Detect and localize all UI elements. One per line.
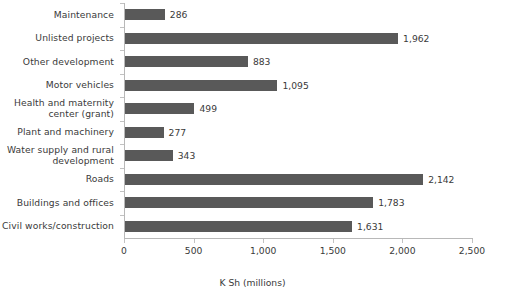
category-label: Health and maternity center (grant) bbox=[0, 98, 114, 119]
bar-value-label: 1,095 bbox=[282, 80, 308, 91]
y-tick bbox=[120, 3, 124, 4]
bar-value-label: 286 bbox=[170, 9, 188, 20]
y-tick bbox=[120, 144, 124, 145]
x-tick-label: 2,000 bbox=[389, 245, 415, 256]
category-label: Civil works/construction bbox=[0, 221, 114, 232]
bar-value-label: 277 bbox=[169, 127, 187, 138]
bar bbox=[125, 197, 373, 208]
category-label: Water supply and rural development bbox=[0, 145, 114, 166]
bar bbox=[125, 56, 248, 67]
category-label: Motor vehicles bbox=[0, 80, 114, 91]
x-axis-line bbox=[124, 238, 473, 239]
bar bbox=[125, 174, 423, 185]
y-tick bbox=[120, 168, 124, 169]
category-label: Plant and machinery bbox=[0, 127, 114, 138]
y-tick bbox=[120, 27, 124, 28]
y-tick bbox=[120, 121, 124, 122]
x-tick-label: 500 bbox=[185, 245, 203, 256]
bar-value-label: 883 bbox=[253, 56, 271, 67]
x-tick bbox=[124, 239, 125, 243]
bar bbox=[125, 221, 352, 232]
bar bbox=[125, 33, 398, 44]
bar-value-label: 499 bbox=[199, 103, 217, 114]
category-label: Buildings and offices bbox=[0, 198, 114, 209]
x-tick bbox=[402, 239, 403, 243]
x-tick bbox=[194, 239, 195, 243]
y-tick bbox=[120, 97, 124, 98]
x-tick-label: 0 bbox=[121, 245, 127, 256]
y-tick bbox=[120, 74, 124, 75]
x-tick-label: 2,500 bbox=[459, 245, 485, 256]
bar-value-label: 343 bbox=[178, 150, 196, 161]
category-axis-labels: MaintenanceUnlisted projectsOther develo… bbox=[0, 3, 114, 238]
x-tick bbox=[263, 239, 264, 243]
category-label: Roads bbox=[0, 174, 114, 185]
bar bbox=[125, 9, 165, 20]
x-tick-label: 1,500 bbox=[320, 245, 346, 256]
bar-chart: MaintenanceUnlisted projectsOther develo… bbox=[0, 0, 505, 301]
bar bbox=[125, 80, 277, 91]
bar-value-label: 2,142 bbox=[428, 174, 454, 185]
bar-value-label: 1,962 bbox=[403, 33, 429, 44]
x-tick bbox=[333, 239, 334, 243]
x-axis-title: K Sh (millions) bbox=[0, 277, 505, 288]
bar-value-label: 1,631 bbox=[357, 221, 383, 232]
y-tick bbox=[120, 50, 124, 51]
bar bbox=[125, 150, 173, 161]
bar-value-label: 1,783 bbox=[378, 197, 404, 208]
y-tick bbox=[120, 191, 124, 192]
plot-area: 2861,9628831,0954992773432,1421,7831,631 bbox=[124, 3, 472, 238]
category-label: Unlisted projects bbox=[0, 33, 114, 44]
category-label: Maintenance bbox=[0, 10, 114, 21]
x-tick-label: 1,000 bbox=[250, 245, 276, 256]
category-label: Other development bbox=[0, 57, 114, 68]
bar bbox=[125, 127, 164, 138]
x-tick bbox=[472, 239, 473, 243]
bar bbox=[125, 103, 194, 114]
y-tick bbox=[120, 215, 124, 216]
